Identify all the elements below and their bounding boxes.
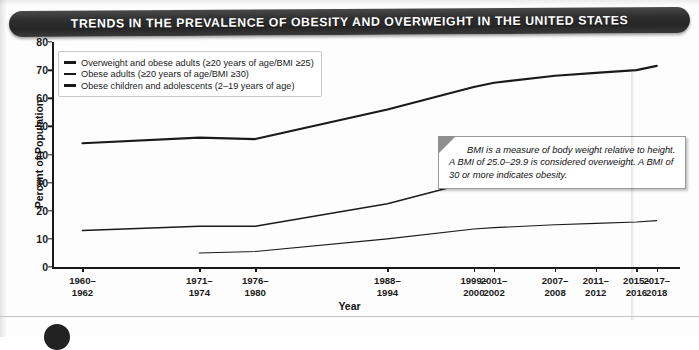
- legend-line-swatch-icon: [64, 84, 76, 87]
- bmi-callout-box: BMI is a measure of body weight relative…: [438, 136, 686, 189]
- page-fold-line: [631, 72, 634, 320]
- chart-legend: Overweight and obese adults (≥20 years o…: [58, 51, 322, 97]
- page-bullet-dot: [44, 324, 70, 350]
- page-top-shadow: [0, 0, 699, 6]
- legend-line-swatch-icon: [64, 73, 76, 76]
- bmi-callout-text: BMI is a measure of body weight relative…: [449, 144, 677, 181]
- data-series-line: [199, 221, 656, 253]
- folded-corner-icon: [438, 136, 456, 154]
- legend-item: Obese adults (≥20 years of age/BMI ≥30): [64, 69, 314, 79]
- chart-title: TRENDS IN THE PREVALENCE OF OBESITY AND …: [71, 13, 628, 30]
- chart-title-banner: TRENDS IN THE PREVALENCE OF OBESITY AND …: [9, 7, 690, 37]
- chart-plot-area: Percent of Population 01020304050607080 …: [0, 36, 699, 284]
- x-axis-title: Year: [0, 300, 699, 312]
- legend-item: Obese children and adolescents (2–19 yea…: [64, 81, 314, 91]
- legend-item-label: Overweight and obese adults (≥20 years o…: [81, 58, 314, 68]
- legend-item-label: Obese adults (≥20 years of age/BMI ≥30): [81, 69, 249, 79]
- legend-item: Overweight and obese adults (≥20 years o…: [64, 58, 314, 68]
- page-bottom-rule: [0, 316, 699, 317]
- legend-item-label: Obese children and adolescents (2–19 yea…: [81, 81, 295, 91]
- legend-line-swatch-icon: [64, 61, 76, 64]
